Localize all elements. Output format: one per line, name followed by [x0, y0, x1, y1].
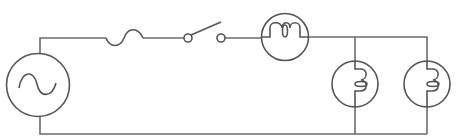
wire-lamp-branch: [309, 37, 427, 62]
fuse-icon: [106, 30, 143, 46]
wire-return: [40, 117, 427, 134]
switch-icon: [184, 22, 225, 42]
lamp-series-icon: [262, 14, 310, 61]
lamp-parallel-2-icon: [404, 61, 450, 107]
circuit-diagram: [0, 0, 458, 137]
wires: [40, 37, 427, 134]
ac-source-icon: [7, 54, 70, 117]
wire-source-top: [40, 38, 106, 53]
lamp-parallel-1-icon: [332, 61, 378, 107]
